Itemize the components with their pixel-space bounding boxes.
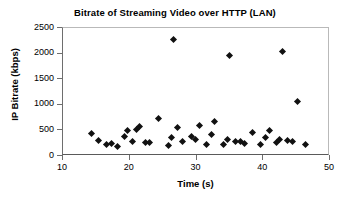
data-point	[249, 129, 256, 136]
plot-area	[62, 27, 329, 155]
x-tick-mark	[129, 155, 130, 160]
x-tick-label: 40	[247, 162, 277, 172]
data-point	[129, 138, 136, 145]
data-point	[257, 141, 264, 148]
data-point	[208, 131, 215, 138]
data-point	[124, 127, 131, 134]
data-point	[146, 139, 153, 146]
data-point	[174, 124, 181, 131]
x-tick-mark	[329, 155, 330, 160]
y-tick-label: 1000	[14, 99, 54, 108]
x-tick-mark	[62, 155, 63, 160]
data-point	[87, 130, 94, 137]
y-tick-label: 0	[14, 151, 54, 160]
y-tick-label: 1500	[14, 74, 54, 83]
x-tick-mark	[262, 155, 263, 160]
y-tick-label: 2000	[14, 48, 54, 57]
y-tick-label: 500	[14, 125, 54, 134]
data-points-layer	[63, 28, 328, 154]
data-point	[289, 138, 296, 145]
data-point	[241, 140, 248, 147]
x-tick-label: 20	[114, 162, 144, 172]
x-tick-label: 50	[314, 162, 344, 172]
x-tick-label: 10	[47, 162, 77, 172]
x-tick-label: 30	[181, 162, 211, 172]
scatter-chart-figure: Bitrate of Streaming Video over HTTP (LA…	[0, 0, 350, 201]
x-tick-mark	[196, 155, 197, 160]
data-point	[276, 136, 283, 143]
data-point	[279, 48, 286, 55]
data-point	[155, 115, 162, 122]
data-point	[302, 141, 309, 148]
data-point	[266, 127, 273, 134]
data-point	[262, 134, 269, 141]
data-point	[165, 142, 172, 149]
x-axis-title: Time (s)	[62, 178, 329, 189]
data-point	[168, 134, 175, 141]
data-point	[203, 141, 210, 148]
chart-title: Bitrate of Streaming Video over HTTP (LA…	[0, 7, 350, 18]
data-point	[294, 98, 301, 105]
data-point	[211, 118, 218, 125]
data-point	[226, 52, 233, 59]
data-point	[179, 138, 186, 145]
data-point	[170, 36, 177, 43]
data-point	[196, 122, 203, 129]
y-tick-label: 2500	[14, 23, 54, 32]
data-point	[95, 137, 102, 144]
